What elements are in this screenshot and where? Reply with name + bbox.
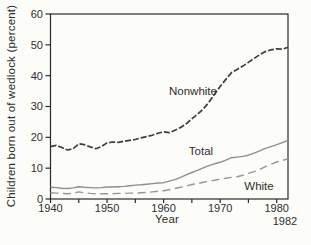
y-tick-label: 30 [31, 100, 43, 112]
y-tick-label: 40 [31, 70, 43, 82]
y-tick-label: 20 [31, 131, 43, 143]
y-tick-label: 60 [31, 8, 43, 20]
y-tick-label: 50 [31, 39, 43, 51]
line-chart-figure: 010203040506019401950196019701980 Childr… [0, 0, 311, 245]
x-tick-label: 1970 [208, 202, 232, 214]
end-year-annotation: 1982 [273, 215, 297, 227]
y-axis-title: Children born out of wedlock (percent) [5, 5, 17, 208]
chart-canvas: 010203040506019401950196019701980 Childr… [0, 0, 311, 245]
plot-frame [51, 14, 289, 199]
x-tick-label: 1950 [95, 202, 119, 214]
series-label-white: White [244, 180, 273, 192]
x-axis-title: Year [155, 213, 179, 225]
series-line-nonwhite [51, 47, 289, 150]
x-tick-label: 1940 [38, 202, 62, 214]
series-label-nonwhite: Nonwhite [169, 85, 217, 97]
y-tick-label: 10 [31, 162, 43, 174]
x-tick-label: 1980 [264, 202, 288, 214]
series-label-total: Total [189, 145, 213, 157]
